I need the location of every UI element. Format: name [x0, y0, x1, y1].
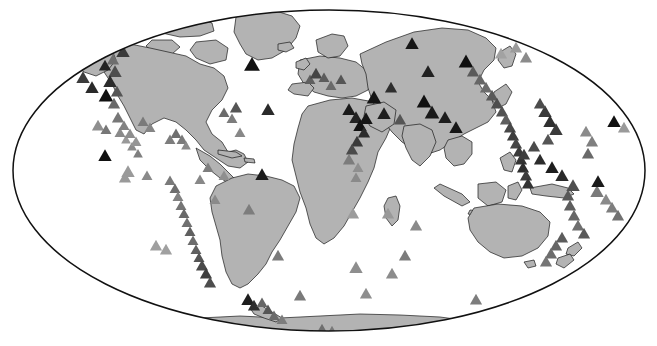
map-marker-triangle [23, 17, 36, 29]
map-marker-triangle [56, 17, 68, 28]
land-arctic-canada [150, 16, 214, 37]
map-marker-triangle [66, 19, 77, 29]
map-marker-triangle [104, 39, 117, 51]
map-marker-triangle [48, 20, 59, 30]
mollweide-world-map [0, 0, 657, 346]
world-map-figure [0, 0, 657, 346]
map-marker-triangle [39, 16, 50, 26]
map-marker-triangle [90, 28, 102, 39]
land-hispaniola [244, 158, 255, 163]
map-marker-triangle [83, 24, 94, 34]
map-marker-triangle [529, 33, 542, 45]
map-marker-triangle [550, 46, 562, 57]
map-marker-triangle [75, 21, 86, 31]
map-marker-triangle [539, 39, 552, 51]
map-marker-triangle [97, 33, 110, 45]
map-marker-triangle [111, 36, 126, 49]
